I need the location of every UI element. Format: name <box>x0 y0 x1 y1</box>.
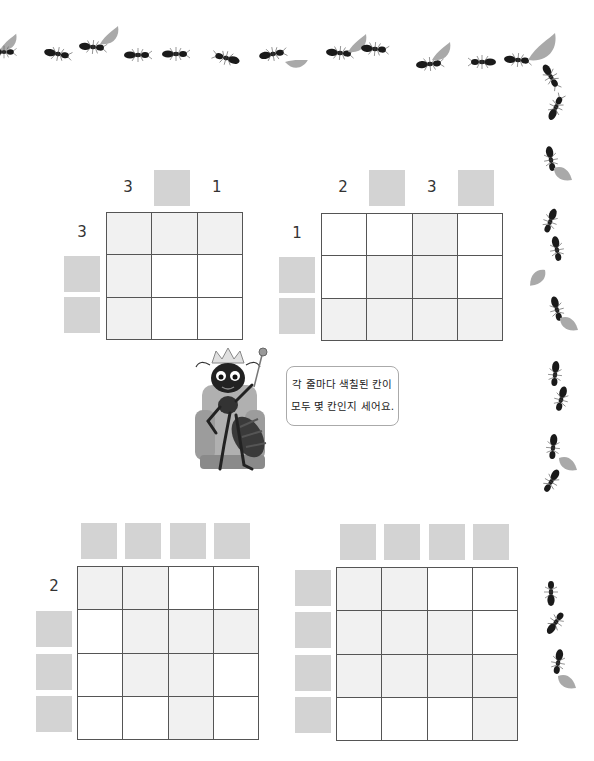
instruction-line-1: 각 줄마다 색칠된 칸이 <box>287 373 398 395</box>
grid-cell[interactable] <box>472 697 517 740</box>
column-count-label: 3 <box>417 178 447 196</box>
column-answer-box[interactable] <box>81 523 117 559</box>
grid-cell[interactable] <box>213 610 258 653</box>
leaf-icon <box>554 167 572 180</box>
grid-cell[interactable] <box>412 298 457 340</box>
ant-icon <box>540 206 562 234</box>
row-answer-box[interactable] <box>295 612 331 648</box>
grid-cell[interactable] <box>427 611 472 654</box>
leaf-icon <box>528 33 556 60</box>
grid-cell[interactable] <box>322 214 367 256</box>
column-answer-box[interactable] <box>214 523 250 559</box>
grid-cell[interactable] <box>382 611 427 654</box>
grid-cell[interactable] <box>213 567 258 610</box>
grid-cell[interactable] <box>367 256 412 298</box>
grid-cell[interactable] <box>472 654 517 697</box>
row-count-label: 3 <box>67 223 97 241</box>
grid-cell[interactable] <box>337 654 382 697</box>
grid-cell[interactable] <box>123 696 168 739</box>
leaf-icon <box>285 50 308 73</box>
grid-cell[interactable] <box>168 567 213 610</box>
ant-icon <box>544 91 569 122</box>
grid-cell[interactable] <box>412 214 457 256</box>
grid-cell[interactable] <box>337 568 382 611</box>
row-answer-box[interactable] <box>295 697 331 733</box>
grid-cell[interactable] <box>168 610 213 653</box>
grid-cell[interactable] <box>367 214 412 256</box>
row-answer-box[interactable] <box>279 298 315 334</box>
grid-cell[interactable] <box>107 255 152 297</box>
grid-cell[interactable] <box>168 653 213 696</box>
grid-cell[interactable] <box>457 256 502 298</box>
ant-icon <box>545 433 561 459</box>
grid-cell[interactable] <box>322 298 367 340</box>
grid-cell[interactable] <box>213 653 258 696</box>
grid-cell[interactable] <box>152 213 197 255</box>
ant-icon <box>162 47 190 61</box>
grid-cell[interactable] <box>168 696 213 739</box>
column-answer-box[interactable] <box>458 170 494 206</box>
ant-king-illustration <box>190 345 285 475</box>
instruction-line-2: 모두 몇 칸인지 세어요. <box>287 395 398 417</box>
row-answer-box[interactable] <box>36 611 72 647</box>
puzzle-grid-4 <box>336 567 518 741</box>
ant-icon <box>551 385 571 413</box>
grid-cell[interactable] <box>197 297 242 339</box>
row-answer-box[interactable] <box>64 297 100 333</box>
ant-icon <box>548 235 566 262</box>
grid-cell[interactable] <box>337 697 382 740</box>
grid-cell[interactable] <box>472 568 517 611</box>
column-answer-box[interactable] <box>125 523 161 559</box>
ant-icon <box>124 48 152 62</box>
row-answer-box[interactable] <box>279 257 315 293</box>
row-answer-box[interactable] <box>36 696 72 732</box>
puzzle-grid-2 <box>321 213 503 341</box>
grid-cell[interactable] <box>412 256 457 298</box>
grid-cell[interactable] <box>152 255 197 297</box>
grid-cell[interactable] <box>213 696 258 739</box>
grid-cell[interactable] <box>123 610 168 653</box>
grid-cell[interactable] <box>382 654 427 697</box>
grid-cell[interactable] <box>367 298 412 340</box>
leaf-icon <box>530 268 546 288</box>
column-answer-box[interactable] <box>384 524 420 560</box>
grid-cell[interactable] <box>457 214 502 256</box>
grid-cell[interactable] <box>123 653 168 696</box>
column-answer-box[interactable] <box>473 524 509 560</box>
grid-cell[interactable] <box>152 297 197 339</box>
column-answer-box[interactable] <box>369 170 405 206</box>
leaf-icon <box>558 675 576 688</box>
grid-cell[interactable] <box>78 653 123 696</box>
grid-cell[interactable] <box>78 696 123 739</box>
grid-cell[interactable] <box>78 567 123 610</box>
grid-cell[interactable] <box>427 697 472 740</box>
column-count-label: 2 <box>328 178 358 196</box>
column-answer-box[interactable] <box>154 170 190 206</box>
column-answer-box[interactable] <box>429 524 465 560</box>
grid-cell[interactable] <box>457 298 502 340</box>
row-answer-box[interactable] <box>36 654 72 690</box>
grid-cell[interactable] <box>337 611 382 654</box>
row-answer-box[interactable] <box>64 256 100 292</box>
grid-cell[interactable] <box>107 213 152 255</box>
grid-cell[interactable] <box>123 567 168 610</box>
grid-cell[interactable] <box>197 213 242 255</box>
grid-cell[interactable] <box>427 568 472 611</box>
row-answer-box[interactable] <box>295 570 331 606</box>
row-answer-box[interactable] <box>295 655 331 691</box>
grid-cell[interactable] <box>197 255 242 297</box>
grid-cell[interactable] <box>107 297 152 339</box>
instruction-bubble: 각 줄마다 색칠된 칸이 모두 몇 칸인지 세어요. <box>286 366 399 426</box>
leaf-icon <box>0 34 17 50</box>
leaf-icon <box>559 457 577 470</box>
grid-cell[interactable] <box>382 568 427 611</box>
column-answer-box[interactable] <box>170 523 206 559</box>
grid-cell[interactable] <box>427 654 472 697</box>
grid-cell[interactable] <box>78 610 123 653</box>
column-answer-box[interactable] <box>340 524 376 560</box>
grid-cell[interactable] <box>382 697 427 740</box>
grid-cell[interactable] <box>472 611 517 654</box>
grid-cell[interactable] <box>322 256 367 298</box>
ant-icon <box>258 45 288 64</box>
leaf-icon <box>432 42 450 60</box>
